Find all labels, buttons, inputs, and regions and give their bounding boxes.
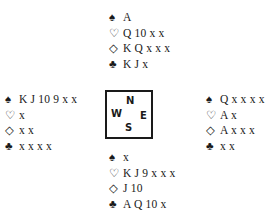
east-spades: Q x x x x (220, 92, 265, 108)
west-spades: K J 10 9 x x (19, 92, 77, 108)
north-spades: A (123, 10, 132, 26)
heart-icon: ♡ (206, 108, 220, 124)
west-diamonds-row: ◇ x x (5, 123, 77, 139)
south-hearts-row: ♡ K J 9 x x x (109, 166, 175, 182)
west-spades-row: ♠ K J 10 9 x x (5, 92, 77, 108)
north-diamonds: K Q x x x (123, 41, 170, 57)
club-icon: ♣ (109, 57, 123, 73)
spade-icon: ♠ (206, 92, 220, 108)
heart-icon: ♡ (5, 108, 19, 124)
spade-icon: ♠ (109, 150, 123, 166)
diamond-icon: ◇ (109, 181, 123, 197)
south-hearts: K J 9 x x x (123, 166, 175, 182)
south-clubs-row: ♣ A Q 10 x (109, 197, 175, 213)
north-clubs: K J x (123, 57, 148, 73)
compass-east-label: E (140, 111, 147, 121)
east-diamonds-row: ◇ A x x x (206, 123, 265, 139)
compass-west-label: W (111, 109, 122, 119)
east-hand: ♠ Q x x x x ♡ A x ◇ A x x x ♣ x x (206, 92, 265, 154)
east-diamonds: A x x x (220, 123, 255, 139)
club-icon: ♣ (206, 139, 220, 155)
compass-box: N W E S (105, 90, 153, 139)
diamond-icon: ◇ (206, 123, 220, 139)
club-icon: ♣ (109, 197, 123, 213)
diamond-icon: ◇ (109, 41, 123, 57)
compass-south-label: S (125, 123, 132, 133)
west-hand: ♠ K J 10 9 x x ♡ x ◇ x x ♣ x x x x (5, 92, 77, 154)
north-hearts-row: ♡ Q 10 x x (109, 26, 170, 42)
south-diamonds: J 10 (123, 181, 143, 197)
north-hearts: Q 10 x x (123, 26, 165, 42)
south-clubs: A Q 10 x (123, 197, 166, 213)
south-diamonds-row: ◇ J 10 (109, 181, 175, 197)
west-clubs: x x x x (19, 139, 52, 155)
west-hearts: x (19, 108, 25, 124)
heart-icon: ♡ (109, 166, 123, 182)
spade-icon: ♠ (109, 10, 123, 26)
compass-north-label: N (126, 96, 134, 106)
west-diamonds: x x (19, 123, 34, 139)
west-clubs-row: ♣ x x x x (5, 139, 77, 155)
club-icon: ♣ (5, 139, 19, 155)
south-hand: ♠ x ♡ K J 9 x x x ◇ J 10 ♣ A Q 10 x (109, 150, 175, 212)
east-hearts-row: ♡ A x (206, 108, 265, 124)
diamond-icon: ◇ (5, 123, 19, 139)
east-spades-row: ♠ Q x x x x (206, 92, 265, 108)
east-clubs: x x (220, 139, 235, 155)
east-clubs-row: ♣ x x (206, 139, 265, 155)
east-hearts: A x (220, 108, 237, 124)
north-spades-row: ♠ A (109, 10, 170, 26)
north-hand: ♠ A ♡ Q 10 x x ◇ K Q x x x ♣ K J x (109, 10, 170, 72)
spade-icon: ♠ (5, 92, 19, 108)
south-spades-row: ♠ x (109, 150, 175, 166)
heart-icon: ♡ (109, 26, 123, 42)
south-spades: x (123, 150, 129, 166)
west-hearts-row: ♡ x (5, 108, 77, 124)
north-clubs-row: ♣ K J x (109, 57, 170, 73)
north-diamonds-row: ◇ K Q x x x (109, 41, 170, 57)
